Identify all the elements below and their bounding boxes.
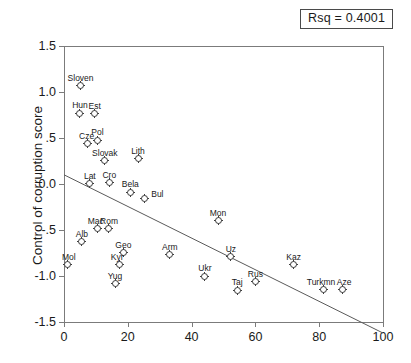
y-tick <box>59 46 64 47</box>
marker-ring <box>215 217 222 224</box>
marker-ring <box>290 261 297 268</box>
marker-ring <box>84 140 91 147</box>
y-tick-label: -1.0 <box>34 269 56 283</box>
marker-ring <box>135 155 142 162</box>
data-point-label: Ukr <box>198 263 211 273</box>
data-point-label: Bela <box>122 179 139 189</box>
marker-ring <box>101 157 108 164</box>
marker-ring <box>91 110 98 117</box>
marker-ring <box>94 137 101 144</box>
marker-ring <box>127 189 134 196</box>
x-tick <box>255 322 256 327</box>
x-axis-line <box>64 322 383 323</box>
data-point-label: Mol <box>62 252 76 262</box>
marker-ring <box>94 225 101 232</box>
data-point-label: Hun <box>72 100 88 110</box>
data-point-label: Kaz <box>286 252 301 262</box>
data-point-label: Uz <box>226 244 236 254</box>
plot-area: 1.51.0.50.0-.5-1.0-1.5 020406080100 Slov… <box>64 46 383 322</box>
x-tick-label: 80 <box>312 330 326 344</box>
y-tick-label: 1.5 <box>39 39 56 53</box>
marker-ring <box>86 180 93 187</box>
data-point-label: Taj <box>232 277 243 287</box>
data-point-label: Rom <box>100 216 118 226</box>
rsq-annotation-box: Rsq = 0.4001 <box>300 9 393 29</box>
y-tick <box>59 230 64 231</box>
data-point-label: Aze <box>337 277 352 287</box>
y-tick-label: .5 <box>46 131 56 145</box>
marker-ring <box>227 253 234 260</box>
marker-ring <box>106 179 113 186</box>
data-point-marker <box>140 194 149 203</box>
x-tick <box>128 322 129 327</box>
marker-ring <box>76 110 83 117</box>
marker-ring <box>320 286 327 293</box>
x-tick-label: 40 <box>185 330 199 344</box>
y-tick-label: -1.5 <box>34 315 56 329</box>
marker-ring <box>64 261 71 268</box>
y-tick <box>59 138 64 139</box>
data-point-label: Alb <box>76 229 88 239</box>
plot-top-border <box>64 46 384 47</box>
x-tick <box>383 322 384 327</box>
x-tick <box>319 322 320 327</box>
data-point-label: Arm <box>162 242 178 252</box>
marker-ring <box>201 273 208 280</box>
y-tick <box>59 92 64 93</box>
marker-ring <box>112 280 119 287</box>
y-tick <box>59 184 64 185</box>
marker-ring <box>77 82 84 89</box>
data-point-label: Lat <box>84 171 96 181</box>
data-point-label: Kyr <box>111 252 124 262</box>
x-tick-label: 60 <box>248 330 262 344</box>
data-point-label: Sloven <box>68 73 94 83</box>
data-point-label: Cro <box>102 170 116 180</box>
data-point-label: Geo <box>115 240 131 250</box>
data-point-label: Bul <box>151 189 163 199</box>
x-tick-label: 100 <box>373 330 394 344</box>
data-point-label: Yug <box>108 271 123 281</box>
chart-page: Rsq = 0.4001 Control of corruption score… <box>0 0 411 363</box>
data-point-label: Slovak <box>92 148 118 158</box>
data-point-label: Mon <box>210 208 227 218</box>
data-point-label: Turkmn <box>307 277 336 287</box>
x-tick <box>64 322 65 327</box>
y-axis-line <box>64 46 65 322</box>
x-tick <box>192 322 193 327</box>
marker-ring <box>339 286 346 293</box>
marker-ring <box>234 287 241 294</box>
x-tick-label: 0 <box>61 330 68 344</box>
y-tick <box>59 276 64 277</box>
marker-ring <box>252 278 259 285</box>
marker-ring <box>141 195 148 202</box>
data-point-label: Pol <box>91 127 103 137</box>
y-tick-label: 1.0 <box>39 85 56 99</box>
y-tick-label: -.5 <box>41 223 56 237</box>
data-point-label: Est <box>88 101 100 111</box>
regression-line <box>64 46 383 336</box>
data-point-label: Rus <box>248 269 263 279</box>
y-tick-label: 0.0 <box>39 177 56 191</box>
marker-ring <box>116 261 123 268</box>
marker-ring <box>105 225 112 232</box>
data-point-label: Lith <box>131 146 145 156</box>
x-tick-label: 20 <box>121 330 135 344</box>
marker-ring <box>78 238 85 245</box>
marker-ring <box>166 251 173 258</box>
plot-right-border <box>383 46 384 322</box>
